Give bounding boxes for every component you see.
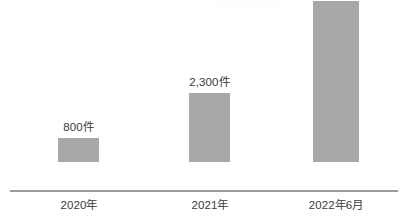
x-axis-label-2: 2022年6月 [298, 198, 374, 212]
bar-rect [58, 138, 99, 162]
x-axis-line [10, 190, 398, 192]
bar-group-0: 800件 [58, 120, 99, 162]
bar-rect [313, 1, 359, 162]
plot-area: 800件 2,300件 5,325件 [0, 0, 410, 192]
bar-rect [189, 93, 230, 162]
bar-value-label: 800件 [63, 120, 94, 134]
x-axis-label-0: 2020年 [48, 198, 110, 212]
bar-group-1: 2,300件 [189, 75, 230, 162]
x-axis-label-1: 2021年 [179, 198, 241, 212]
bar-group-2: 5,325件 [313, 0, 359, 162]
bar-chart: 800件 2,300件 5,325件 2020年 2021年 2022年6月 [0, 0, 410, 222]
bar-value-label: 2,300件 [189, 75, 229, 89]
